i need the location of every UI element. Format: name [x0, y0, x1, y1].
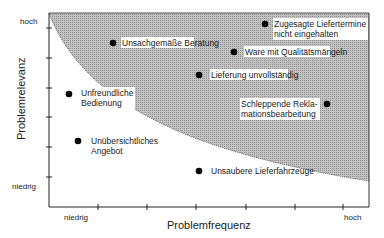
point-label: Unübersichtliches — [91, 136, 158, 146]
x-low-label: niedrig — [64, 213, 88, 222]
point-label: Zugesagte Liefertermine — [274, 19, 366, 29]
y-axis-title: Problemrelevanz — [15, 57, 27, 140]
point-label: nicht eingehalten — [274, 29, 339, 39]
point-label: Unfreundliche — [81, 88, 134, 98]
point-label: Unsaubere Lieferfahrzeuge — [211, 166, 314, 176]
point-label: Schleppende Rekla- — [241, 99, 318, 109]
x-high-label: hoch — [344, 213, 361, 222]
point-ware-qualitaetsmaengel[interactable]: Ware mit Qualitätsmängeln — [231, 46, 348, 57]
point-unsachgemaesse-beratung[interactable]: Unsachgemäße Beratung — [110, 37, 219, 48]
y-low-label: niedrig — [12, 182, 36, 191]
portfolio-chart: hoch niedrig niedrig hoch Problemfrequen… — [0, 0, 384, 238]
point-unsaubere-lieferfahrzeuge[interactable]: Unsaubere Lieferfahrzeuge — [196, 166, 315, 176]
point-unfreundliche-bedienung[interactable]: Unfreundliche Bedienung — [66, 87, 135, 109]
y-high-label: hoch — [20, 17, 37, 26]
point-unuebersichtliches-angebot[interactable]: Unübersichtliches Angebot — [75, 136, 158, 156]
point-label: Ware mit Qualitätsmängeln — [245, 47, 347, 57]
point-zugesagte-liefertermine[interactable]: Zugesagte Liefertermine nicht eingehalte… — [262, 18, 368, 40]
point-schleppende-reklamation[interactable]: Schleppende Rekla- mationsbearbeitung — [240, 98, 330, 120]
point-label: Angebot — [91, 146, 123, 156]
point-label: Lieferung unvollständig — [211, 70, 299, 80]
point-lieferung-unvollstaendig[interactable]: Lieferung unvollständig — [196, 69, 299, 80]
point-label: Unsachgemäße Beratung — [122, 38, 219, 48]
point-label: mationsbearbeitung — [241, 109, 316, 119]
point-label: Bedienung — [81, 98, 122, 108]
x-axis-title: Problemfrequenz — [167, 219, 251, 231]
